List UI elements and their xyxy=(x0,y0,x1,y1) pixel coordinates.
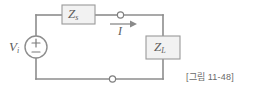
current-arrow-head xyxy=(130,20,137,27)
current-label: I xyxy=(118,25,122,37)
load-impedance-label: ZL xyxy=(154,40,166,55)
circuit-figure: Zs ZL Vi I [그림 11-48] xyxy=(0,0,260,97)
source-voltage-subscript: i xyxy=(17,46,19,55)
load-impedance-subscript: L xyxy=(161,46,165,55)
source-voltage-symbol: V xyxy=(9,39,17,54)
terminal-top xyxy=(117,12,123,18)
figure-caption: [그림 11-48] xyxy=(186,70,234,83)
terminal-bottom xyxy=(109,76,115,82)
source-impedance-subscript: s xyxy=(75,13,78,22)
source-impedance-label: Zs xyxy=(68,7,78,22)
source-voltage-label: Vi xyxy=(9,40,19,55)
source-impedance-box xyxy=(62,5,95,24)
